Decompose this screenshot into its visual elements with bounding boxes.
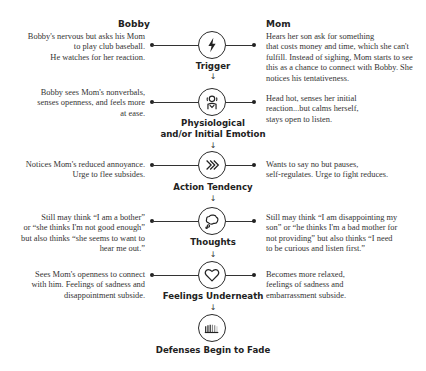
thoughts-label: Thoughts — [113, 237, 313, 248]
person-body-icon — [203, 93, 221, 111]
text-line: reaction...but calms herself, — [266, 104, 426, 114]
connector-line — [226, 102, 254, 103]
heart-icon — [203, 266, 221, 284]
text-line: senses openness, and feels more — [0, 98, 145, 108]
text-line: Still may think “I am disappointing my — [266, 213, 426, 223]
thought-bubble-icon — [203, 212, 221, 230]
text-line: with him. Feelings of sadness and — [0, 280, 145, 290]
text-line: self-regulates. Urge to fight reduces. — [266, 170, 426, 180]
text-line: Bobby sees Mom's nonverbals, — [0, 88, 145, 98]
down-arrow-icon: ↓ — [207, 304, 219, 312]
connector-line — [152, 275, 198, 276]
text-line: Head hot, senses her initial — [266, 94, 426, 104]
action-tendency-label: Action Tendency — [113, 182, 313, 193]
defenses-label: Defenses Begin to Fade — [113, 345, 313, 356]
chevrons-right-icon — [203, 156, 221, 174]
feelings-label: Feelings Underneath — [113, 291, 313, 302]
text-line: Urge to flee subsides. — [0, 170, 145, 180]
text-line: Becomes more relaxed, — [266, 270, 426, 280]
connector-line — [152, 45, 198, 46]
text-line: to play club baseball. — [0, 42, 145, 52]
physiological-node — [198, 88, 226, 116]
text-line: son” or “he thinks I'm a bad mother for — [266, 223, 426, 233]
lightning-bolt-icon — [203, 36, 221, 54]
bobby-thoughts-text: Still may think “I am a bother” or “she … — [0, 213, 145, 255]
mom-thoughts-text: Still may think “I am disappointing my s… — [266, 213, 426, 255]
down-arrow-icon: ↓ — [207, 142, 219, 150]
connector-dot — [252, 100, 256, 104]
connector-line — [152, 102, 198, 103]
connector-line — [226, 221, 254, 222]
text-line: Bobby's nervous but asks his Mom — [0, 32, 145, 42]
physiological-label: Physiological and/or Initial Emotion — [113, 118, 313, 139]
text-line: Still may think “I am a bother” — [0, 213, 145, 223]
down-arrow-icon: ↓ — [207, 251, 219, 259]
label-line: and/or Initial Emotion — [113, 129, 313, 140]
connector-line — [152, 165, 198, 166]
connector-dot — [252, 219, 256, 223]
text-line: Notices Mom's reduced annoyance. — [0, 160, 145, 170]
connector-dot — [252, 273, 256, 277]
mom-action-text: Wants to say no but pauses, self-regulat… — [266, 160, 426, 181]
connector-line — [152, 221, 198, 222]
bobby-physio-text: Bobby sees Mom's nonverbals, senses open… — [0, 88, 145, 119]
bobby-trigger-text: Bobby's nervous but asks his Mom to play… — [0, 32, 145, 63]
mom-trigger-text: Hears her son ask for something that cos… — [266, 32, 426, 84]
text-line: Wants to say no but pauses, — [266, 160, 426, 170]
text-line: feelings of sadness and — [266, 280, 426, 290]
thoughts-node — [198, 207, 226, 235]
header-mom: Mom — [266, 19, 291, 29]
action-tendency-node — [198, 151, 226, 179]
connector-line — [226, 165, 254, 166]
text-line: notices his tentativeness. — [266, 74, 426, 84]
text-line: that costs money and time, which she can… — [266, 42, 426, 52]
connector-dot — [252, 163, 256, 167]
text-line: or “she thinks I'm not good enough” — [0, 223, 145, 233]
text-line: Hears her son ask for something — [266, 32, 426, 42]
label-line: Physiological — [113, 118, 313, 129]
connector-line — [226, 45, 254, 46]
bobby-action-text: Notices Mom's reduced annoyance. Urge to… — [0, 160, 145, 181]
fading-wall-icon — [203, 319, 221, 337]
trigger-label: Trigger — [113, 61, 313, 72]
down-arrow-icon: ↓ — [207, 73, 219, 81]
connector-dot — [252, 43, 256, 47]
header-bobby: Bobby — [118, 19, 150, 29]
feelings-node — [198, 261, 226, 289]
down-arrow-icon: ↓ — [207, 195, 219, 203]
connector-line — [226, 275, 254, 276]
trigger-node — [198, 31, 226, 59]
defenses-node — [198, 314, 226, 342]
text-line: Sees Mom's openness to connect — [0, 270, 145, 280]
